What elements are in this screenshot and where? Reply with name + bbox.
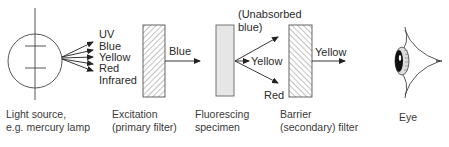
- caption-specimen-2: specimen: [195, 121, 240, 133]
- label-barrier-output: Yellow: [315, 46, 346, 58]
- label-unabsorbed-blue: blue): [238, 21, 262, 33]
- caption-barrier-1: Barrier: [280, 108, 312, 120]
- mercury-lamp-icon: [8, 8, 62, 100]
- caption-light-source-1: Light source,: [6, 108, 66, 120]
- fluorescing-specimen: [216, 25, 234, 96]
- label-specimen-yellow: Yellow: [251, 55, 282, 67]
- caption-excitation-2: (primary filter): [112, 121, 177, 133]
- caption-excitation-1: Excitation: [112, 108, 158, 120]
- label-uv: UV: [99, 28, 115, 40]
- emitted-rays: [62, 42, 93, 71]
- caption-eye: Eye: [399, 111, 417, 123]
- label-specimen-red: Red: [264, 89, 284, 101]
- label-red: Red: [99, 62, 119, 74]
- label-excitation-output: Blue: [169, 45, 191, 57]
- caption-barrier-2: (secondary) filter: [280, 121, 359, 133]
- excitation-filter: [143, 25, 165, 97]
- barrier-filter: [289, 25, 312, 97]
- label-infrared: Infrared: [99, 74, 137, 86]
- eye-icon: [395, 27, 442, 98]
- caption-light-source-2: e.g. mercury lamp: [6, 121, 90, 133]
- fluorescence-microscopy-diagram: UV Blue Yellow Red Infrared Blue (Unabso…: [0, 0, 449, 147]
- caption-specimen-1: Fluorescing: [195, 108, 249, 120]
- label-unabsorbed: (Unabsorbed: [238, 8, 302, 20]
